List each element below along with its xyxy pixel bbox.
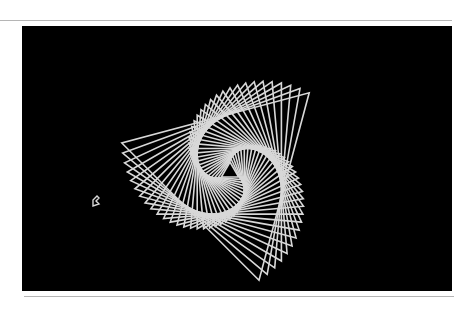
top-divider [0, 20, 452, 21]
turtle-drawing [22, 26, 452, 291]
turtle-cursor-icon [93, 196, 99, 206]
logo-graphics-screen [22, 26, 452, 291]
turtle-cursor-icon [93, 196, 99, 206]
spiral-triangles [122, 81, 309, 280]
bottom-divider [24, 296, 454, 297]
